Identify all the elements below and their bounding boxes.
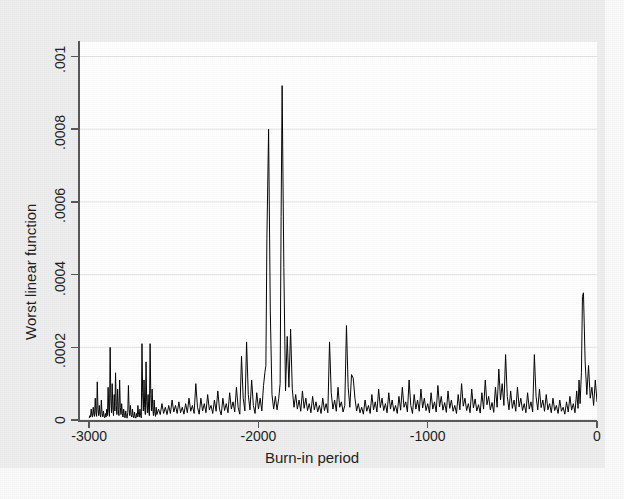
y-axis-tick [71, 128, 79, 130]
y-axis-tick [71, 274, 79, 276]
y-axis-tick [71, 347, 79, 349]
x-axis-line [78, 420, 597, 422]
y-axis-tick-label: .0004 [52, 261, 68, 296]
plot-area [79, 42, 597, 420]
y-axis-tick-label: .001 [52, 46, 68, 73]
x-axis-tick [427, 421, 429, 428]
x-axis-tick [258, 421, 260, 428]
page-margin-right [605, 0, 624, 499]
y-axis-tick [71, 419, 79, 421]
chart-figure: 0.0002.0004.0006.0008.001 -3000-2000-100… [0, 0, 624, 499]
series-line [89, 86, 597, 419]
y-axis-tick-label: .0008 [52, 115, 68, 150]
y-axis-tick-label: .0006 [52, 188, 68, 223]
x-axis-tick [596, 421, 598, 428]
x-axis-tick-label: -1000 [388, 428, 468, 444]
y-axis-tick [71, 56, 79, 58]
x-axis-tick-label: 0 [557, 428, 624, 444]
y-axis-tick-label: .0002 [52, 333, 68, 368]
y-axis-tick [71, 201, 79, 203]
y-axis-title: Worst linear function [22, 204, 39, 340]
page-margin-bottom [0, 468, 624, 499]
x-axis-title: Burn-in period [0, 449, 624, 466]
x-axis-tick-label: -3000 [49, 428, 129, 444]
x-axis-tick-label: -2000 [218, 428, 298, 444]
y-axis-tick-label: 0 [52, 416, 68, 424]
x-axis-tick [88, 421, 90, 428]
gridlines [79, 57, 597, 420]
series-worst-linear-function [79, 42, 597, 420]
y-axis-line [78, 41, 80, 421]
